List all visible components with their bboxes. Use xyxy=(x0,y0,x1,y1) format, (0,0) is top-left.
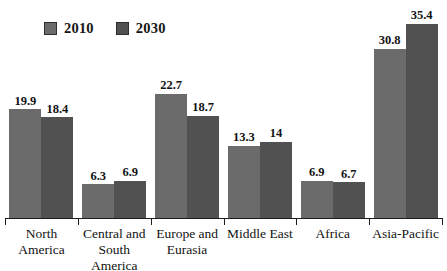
bar-2030-asia-pacific: 35.4 xyxy=(406,24,438,219)
bar-2030-middle-east: 14 xyxy=(260,142,292,219)
category-label-asia-pacific: Asia-Pacific xyxy=(369,226,442,242)
bar-pair: 6.96.7 xyxy=(301,0,365,219)
bar-group: 22.718.7 xyxy=(151,0,224,219)
bar-pair: 6.36.9 xyxy=(82,0,146,219)
axis-tick xyxy=(151,218,152,225)
bar-value-label: 35.4 xyxy=(411,9,433,22)
bar-value-label: 13.3 xyxy=(233,131,255,144)
axis-tick xyxy=(78,218,79,225)
bar-2010-middle-east: 13.3 xyxy=(228,146,260,219)
category-label-africa: Africa xyxy=(296,226,369,242)
bar-group: 19.918.4 xyxy=(5,0,78,219)
bar-group: 13.314 xyxy=(224,0,297,219)
plot-area: 19.918.46.36.922.718.713.3146.96.730.835… xyxy=(0,0,447,219)
bar-value-label: 30.8 xyxy=(379,34,401,47)
bar-value-label: 22.7 xyxy=(160,79,182,92)
bar-2010-north-america: 19.9 xyxy=(9,109,41,219)
bar-pair: 19.918.4 xyxy=(9,0,73,219)
bar-value-label: 6.7 xyxy=(341,168,357,181)
bar-2030-africa: 6.7 xyxy=(333,182,365,219)
axis-tick xyxy=(224,218,225,225)
bar-pair: 13.314 xyxy=(228,0,292,219)
bar-value-label: 6.3 xyxy=(90,170,106,183)
bar-group: 6.96.7 xyxy=(296,0,369,219)
bar-value-label: 18.4 xyxy=(46,103,68,116)
bar-group: 30.835.4 xyxy=(369,0,442,219)
bar-value-label: 6.9 xyxy=(309,166,325,179)
category-label-north-america: North America xyxy=(5,226,78,258)
bar-2030-europe-and-eurasia: 18.7 xyxy=(187,116,219,219)
category-label-central-and-south-america: Central and South America xyxy=(78,226,151,271)
category-label-europe-and-eurasia: Europe and Eurasia xyxy=(151,226,224,258)
bar-value-label: 18.7 xyxy=(192,101,214,114)
bar-2010-asia-pacific: 30.8 xyxy=(374,49,406,219)
bar-value-label: 19.9 xyxy=(14,95,36,108)
bar-pair: 30.835.4 xyxy=(374,0,438,219)
bar-group: 6.36.9 xyxy=(78,0,151,219)
bar-pair: 22.718.7 xyxy=(155,0,219,219)
axis-tick xyxy=(296,218,297,225)
bar-2010-central-and-south-america: 6.3 xyxy=(82,184,114,219)
bar-value-label: 6.9 xyxy=(122,166,138,179)
category-label-middle-east: Middle East xyxy=(224,226,297,242)
axis-tick xyxy=(442,218,443,225)
bar-2010-africa: 6.9 xyxy=(301,181,333,219)
bar-2030-central-and-south-america: 6.9 xyxy=(114,181,146,219)
axis-tick xyxy=(369,218,370,225)
bar-2030-north-america: 18.4 xyxy=(41,117,73,219)
axis-tick xyxy=(5,218,6,225)
bar-value-label: 14 xyxy=(270,127,283,140)
bar-2010-europe-and-eurasia: 22.7 xyxy=(155,94,187,219)
bar-chart: 2010 2030 19.918.46.36.922.718.713.3146.… xyxy=(0,0,447,271)
